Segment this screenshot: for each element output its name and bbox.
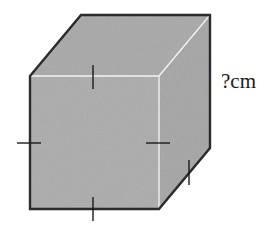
edge-length-label: ?cm — [221, 71, 256, 92]
cube-front-face — [30, 76, 159, 209]
cube-diagram — [0, 0, 275, 227]
